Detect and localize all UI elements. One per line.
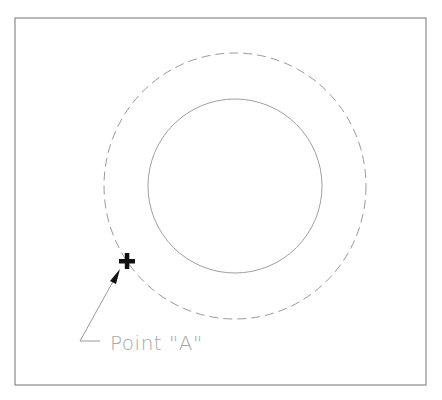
inner-circle [148,99,322,273]
drawing-frame [15,18,426,385]
cad-drawing: Point "A" [0,0,442,400]
point-a-label: Point "A" [110,331,203,355]
outer-dashed-circle [104,53,366,319]
arrowhead-icon [110,269,120,284]
point-a-cross-icon [119,253,135,269]
